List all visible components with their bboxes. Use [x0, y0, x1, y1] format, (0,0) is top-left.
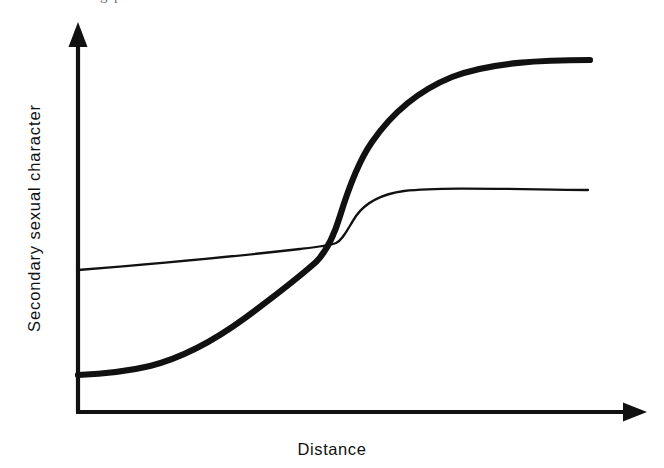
- y-axis-label: Secondary sexual character: [22, 88, 46, 348]
- plot-area: [0, 0, 664, 468]
- y-axis-arrowhead-icon: [69, 22, 88, 47]
- figure-container: g p Secondary sexual character Distance: [0, 0, 664, 468]
- curve-strong-cline-thick: [78, 60, 590, 375]
- x-axis-label: Distance: [0, 440, 664, 459]
- x-axis-arrowhead-icon: [623, 403, 647, 422]
